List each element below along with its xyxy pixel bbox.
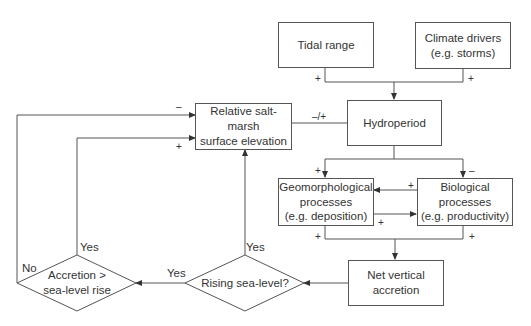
node-net-accretion: Net vertical accretion xyxy=(348,260,444,306)
node-climate-drivers: Climate drivers (e.g. storms) xyxy=(415,22,511,69)
edge-label-inner-plus: + xyxy=(176,142,182,152)
arrow-accretion-yes-to-elevation xyxy=(77,138,195,255)
node-hydroperiod-label: Hydroperiod xyxy=(363,116,426,131)
node-biological: Biological processes (e.g. productivity) xyxy=(417,178,513,226)
edge-label-accretion-no: No xyxy=(22,263,37,275)
edge-label-elevation-hydro: –/+ xyxy=(312,112,326,122)
edge-label-outer-minus: – xyxy=(176,102,182,112)
node-tidal-range-label: Tidal range xyxy=(297,38,354,53)
node-net-accretion-label: Net vertical accretion xyxy=(367,268,425,298)
edge-label-rising-yes-up: Yes xyxy=(246,242,265,254)
connector-bio-net xyxy=(395,225,463,239)
edge-label-geo-net-plus: + xyxy=(315,232,321,242)
edge-label-climate-plus: + xyxy=(468,74,474,84)
edge-label-geo-to-bio-plus: + xyxy=(378,218,384,228)
node-surface-elevation-label: Relative salt-marsh surface elevation xyxy=(196,104,291,149)
edge-label-bio-to-geo-plus: + xyxy=(408,181,414,191)
edge-label-hydro-geo-plus: + xyxy=(315,166,321,176)
edge-label-accretion-yes: Yes xyxy=(80,242,99,254)
node-geomorphological: Geomorphological processes (e.g. deposit… xyxy=(278,178,374,226)
node-biological-label: Biological processes (e.g. productivity) xyxy=(421,180,509,225)
connector-geo-net xyxy=(325,225,395,239)
node-geomorphological-label: Geomorphological processes (e.g. deposit… xyxy=(279,180,372,225)
arrow-accretion-no-to-elevation xyxy=(17,115,195,283)
connector-hydro-split xyxy=(325,145,463,159)
edge-label-tidal-plus: + xyxy=(315,74,321,84)
decision-accretion-vs-slr-label: Accretion > sea-level rise xyxy=(27,268,127,298)
edge-label-rising-yes-left: Yes xyxy=(167,268,186,280)
node-tidal-range: Tidal range xyxy=(278,22,374,68)
node-climate-drivers-label: Climate drivers (e.g. storms) xyxy=(425,31,502,61)
connector-tidal-hydro xyxy=(325,67,394,82)
decision-rising-sea-level-label: Rising sea-level? xyxy=(195,275,295,291)
edge-label-bio-net-plus: + xyxy=(469,232,475,242)
connector-climate-hydro xyxy=(394,68,463,82)
node-surface-elevation: Relative salt-marsh surface elevation xyxy=(195,103,292,150)
node-hydroperiod: Hydroperiod xyxy=(347,100,442,146)
edge-label-hydro-bio-minus: – xyxy=(469,166,475,176)
